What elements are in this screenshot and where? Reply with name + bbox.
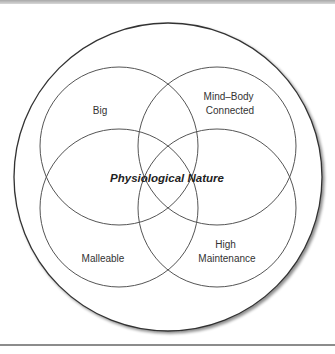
- venn-diagram: Big Mind–Body Connected Physiological Na…: [0, 0, 335, 354]
- label-malleable: Malleable: [82, 253, 125, 264]
- bottom-rule: [0, 344, 335, 346]
- label-big: Big: [93, 105, 107, 116]
- center-label: Physiological Nature: [110, 172, 224, 184]
